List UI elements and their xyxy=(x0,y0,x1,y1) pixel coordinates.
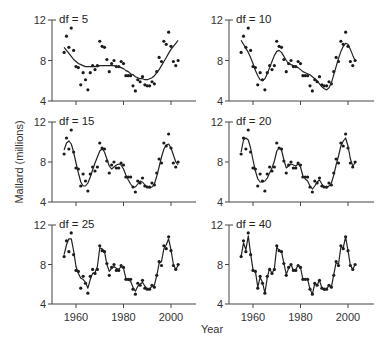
data-point xyxy=(70,128,73,131)
data-point xyxy=(244,250,247,253)
y-tick-label: 4 xyxy=(40,95,46,107)
data-point xyxy=(240,51,243,54)
x-axis-title: Year xyxy=(201,323,224,335)
data-point xyxy=(141,75,144,78)
data-point xyxy=(339,40,342,43)
data-point xyxy=(244,147,247,150)
axis-lines xyxy=(229,225,374,304)
data-point xyxy=(79,83,82,86)
panel-label: df = 10 xyxy=(236,13,272,25)
y-tick-label: 8 xyxy=(217,156,223,168)
y-tick-label: 4 xyxy=(217,95,223,107)
data-point xyxy=(93,169,96,172)
data-point xyxy=(79,287,82,290)
data-point xyxy=(139,80,142,83)
y-tick-label: 4 xyxy=(217,196,223,208)
data-point xyxy=(134,190,137,193)
panel-df-15: 4812df = 15 xyxy=(34,115,196,208)
panel-df-5: 4812df = 5 xyxy=(34,13,196,107)
data-point xyxy=(318,176,321,179)
data-point xyxy=(148,84,151,87)
data-point xyxy=(165,43,168,46)
x-tick-label: 1980 xyxy=(111,311,135,323)
data-point xyxy=(65,136,68,139)
data-point xyxy=(247,27,250,30)
data-point xyxy=(259,71,262,74)
data-point xyxy=(268,165,271,168)
y-tick-label: 12 xyxy=(211,116,223,128)
y-tick-label: 8 xyxy=(40,156,46,168)
y-tick-label: 8 xyxy=(40,259,46,271)
y-tick-label: 8 xyxy=(217,55,223,67)
data-point xyxy=(275,141,278,144)
data-point xyxy=(172,60,175,63)
data-point xyxy=(273,64,276,67)
data-point xyxy=(82,71,85,74)
panel-df-25: 4812196019802000df = 25 xyxy=(34,218,196,323)
data-point xyxy=(110,62,113,65)
smoothing-spline-curve xyxy=(241,40,355,90)
panel-df-10: 4812df = 10 xyxy=(211,13,374,107)
data-point xyxy=(86,292,89,295)
data-point xyxy=(172,161,175,164)
data-point xyxy=(67,46,70,49)
data-point xyxy=(84,179,87,182)
data-point xyxy=(67,147,70,150)
data-point xyxy=(112,160,115,163)
data-point xyxy=(70,27,73,30)
data-point xyxy=(96,165,99,168)
data-point xyxy=(167,235,170,238)
data-point xyxy=(162,141,165,144)
data-point xyxy=(174,64,177,67)
panel-label: df = 25 xyxy=(59,218,95,230)
data-point xyxy=(285,70,288,73)
data-point xyxy=(247,128,250,131)
data-point xyxy=(108,70,111,73)
data-point xyxy=(299,62,302,65)
data-point xyxy=(177,59,180,62)
panel-df-20: 4812df = 20 xyxy=(211,115,374,208)
data-point xyxy=(349,60,352,63)
data-point xyxy=(65,35,68,38)
data-point xyxy=(335,56,338,59)
data-point xyxy=(242,239,245,242)
y-tick-label: 12 xyxy=(34,219,46,231)
x-tick-label: 2000 xyxy=(336,311,360,323)
data-point xyxy=(342,144,345,147)
data-point xyxy=(91,268,94,271)
data-point xyxy=(108,171,111,174)
data-point xyxy=(275,40,278,43)
data-point xyxy=(160,264,163,267)
y-tick-label: 12 xyxy=(34,14,46,26)
data-point xyxy=(308,84,311,87)
y-tick-label: 8 xyxy=(40,55,46,67)
smoothing-spline-chart: 4812df = 54812df = 104812df = 154812df =… xyxy=(0,0,390,345)
data-point xyxy=(263,189,266,192)
data-point xyxy=(167,31,170,34)
data-point xyxy=(240,152,243,155)
data-point xyxy=(110,163,113,166)
data-point xyxy=(86,189,89,192)
data-point xyxy=(98,40,101,43)
x-tick-label: 1980 xyxy=(288,311,312,323)
data-point xyxy=(259,172,262,175)
panel-df-40: 4812196019802000df = 40 xyxy=(211,218,374,323)
data-point xyxy=(306,175,309,178)
data-point xyxy=(72,49,75,52)
data-point xyxy=(247,231,250,234)
x-tick-label: 1960 xyxy=(241,311,265,323)
y-axis-title: Mallard (millions) xyxy=(13,120,25,203)
data-point xyxy=(82,172,85,175)
data-point xyxy=(285,171,288,174)
data-point xyxy=(344,31,347,34)
data-point xyxy=(63,51,66,54)
data-point xyxy=(131,84,134,87)
data-point xyxy=(103,46,106,49)
data-point xyxy=(174,165,177,168)
axis-lines xyxy=(229,122,374,202)
data-point xyxy=(105,58,108,61)
data-point xyxy=(63,152,66,155)
y-tick-label: 12 xyxy=(34,116,46,128)
data-point xyxy=(153,82,156,85)
panel-label: df = 20 xyxy=(236,115,272,127)
